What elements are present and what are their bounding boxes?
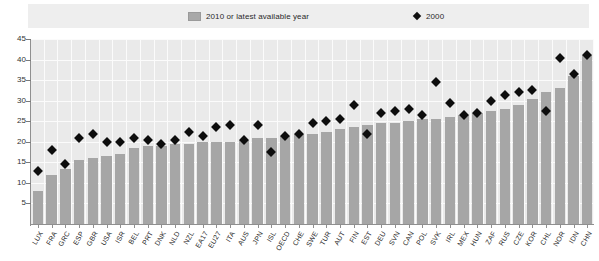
diamond-marker[interactable] (335, 114, 345, 124)
bar[interactable] (280, 136, 290, 224)
bar-group[interactable] (347, 39, 361, 224)
bar-group[interactable] (72, 39, 86, 224)
bar-group[interactable] (264, 39, 278, 224)
diamond-marker[interactable] (321, 116, 331, 126)
bar-group[interactable] (223, 39, 237, 224)
diamond-marker[interactable] (184, 127, 194, 137)
bar[interactable] (403, 121, 413, 224)
bar[interactable] (88, 158, 98, 224)
diamond-marker[interactable] (555, 53, 565, 63)
diamond-marker[interactable] (308, 118, 318, 128)
bar[interactable] (33, 191, 43, 224)
bar-group[interactable] (100, 39, 114, 224)
bar[interactable] (129, 148, 139, 224)
diamond-marker[interactable] (47, 145, 57, 155)
diamond-marker[interactable] (129, 133, 139, 143)
bar-group[interactable] (512, 39, 526, 224)
bar-group[interactable] (553, 39, 567, 224)
bar-group[interactable] (155, 39, 169, 224)
bar-group[interactable] (429, 39, 443, 224)
diamond-marker[interactable] (253, 120, 263, 130)
bar-group[interactable] (333, 39, 347, 224)
bar-group[interactable] (292, 39, 306, 224)
bar[interactable] (335, 129, 345, 224)
bar[interactable] (513, 105, 523, 224)
bar-group[interactable] (484, 39, 498, 224)
bar-group[interactable] (127, 39, 141, 224)
bar[interactable] (239, 140, 249, 224)
diamond-marker[interactable] (376, 108, 386, 118)
bar[interactable] (527, 99, 537, 224)
bar[interactable] (349, 127, 359, 224)
bar[interactable] (46, 175, 56, 224)
bar[interactable] (472, 113, 482, 224)
bar[interactable] (321, 132, 331, 225)
bar-group[interactable] (86, 39, 100, 224)
bar-group[interactable] (278, 39, 292, 224)
bar[interactable] (197, 142, 207, 224)
diamond-marker[interactable] (143, 135, 153, 145)
bar-group[interactable] (402, 39, 416, 224)
bar-group[interactable] (251, 39, 265, 224)
bar-group[interactable] (457, 39, 471, 224)
diamond-marker[interactable] (115, 137, 125, 147)
bar[interactable] (294, 134, 304, 224)
bar-group[interactable] (237, 39, 251, 224)
bar-group[interactable] (525, 39, 539, 224)
diamond-marker[interactable] (527, 85, 537, 95)
bar-group[interactable] (319, 39, 333, 224)
diamond-marker[interactable] (225, 120, 235, 130)
bar-group[interactable] (58, 39, 72, 224)
bar[interactable] (445, 117, 455, 224)
bar-group[interactable] (141, 39, 155, 224)
bar[interactable] (500, 109, 510, 224)
bar[interactable] (252, 138, 262, 224)
bar[interactable] (431, 119, 441, 224)
bar[interactable] (390, 123, 400, 224)
bar[interactable] (307, 134, 317, 224)
bar[interactable] (225, 142, 235, 224)
diamond-marker[interactable] (404, 104, 414, 114)
bar[interactable] (486, 111, 496, 224)
bar-group[interactable] (374, 39, 388, 224)
bar[interactable] (60, 169, 70, 225)
diamond-marker[interactable] (74, 133, 84, 143)
bar-group[interactable] (182, 39, 196, 224)
bar[interactable] (362, 125, 372, 224)
bar[interactable] (376, 123, 386, 224)
bar-group[interactable] (498, 39, 512, 224)
diamond-marker[interactable] (88, 129, 98, 139)
bar-group[interactable] (306, 39, 320, 224)
bar[interactable] (458, 115, 468, 224)
bar-group[interactable] (210, 39, 224, 224)
bar[interactable] (101, 156, 111, 224)
diamond-marker[interactable] (198, 131, 208, 141)
bar[interactable] (568, 76, 578, 224)
diamond-marker[interactable] (514, 88, 524, 98)
bar-group[interactable] (580, 39, 594, 224)
diamond-marker[interactable] (33, 166, 43, 176)
bar-group[interactable] (31, 39, 45, 224)
bar-group[interactable] (567, 39, 581, 224)
diamond-marker[interactable] (102, 137, 112, 147)
bar[interactable] (143, 146, 153, 224)
diamond-marker[interactable] (445, 98, 455, 108)
bar-group[interactable] (471, 39, 485, 224)
bar[interactable] (417, 119, 427, 224)
diamond-marker[interactable] (500, 90, 510, 100)
bar[interactable] (555, 88, 565, 224)
diamond-marker[interactable] (390, 106, 400, 116)
bar-group[interactable] (443, 39, 457, 224)
diamond-marker[interactable] (349, 100, 359, 110)
bar[interactable] (115, 154, 125, 224)
bar-group[interactable] (361, 39, 375, 224)
bar-group[interactable] (388, 39, 402, 224)
bar[interactable] (156, 146, 166, 224)
bar-group[interactable] (416, 39, 430, 224)
bar-group[interactable] (196, 39, 210, 224)
bar[interactable] (582, 55, 592, 224)
bar[interactable] (170, 144, 180, 224)
bar-group[interactable] (539, 39, 553, 224)
bar-group[interactable] (168, 39, 182, 224)
diamond-marker[interactable] (431, 77, 441, 87)
